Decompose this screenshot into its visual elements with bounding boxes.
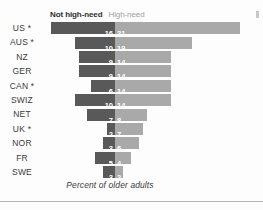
bar-segment-not-high-need: 3 [103,166,115,178]
chart-row: GER914 [0,64,263,78]
chart-row: FR54 [0,151,263,165]
bar-segment-not-high-need: 5 [95,152,115,164]
chart-row: SWE32 [0,165,263,179]
chart-row: NZ914 [0,50,263,64]
bar-segment-not-high-need: 16 [51,22,115,34]
stacked-bar: 914 [0,65,263,77]
chart-row: CAN *614 [0,79,263,93]
stacked-bar: 614 [0,80,263,92]
chart-row: SWIZ1014 [0,93,263,107]
bar-segment-high-need: 19 [115,37,192,49]
bar-segment-high-need: 8 [115,109,147,121]
chart-caption: Percent of older adults [0,180,220,190]
bottom-divider [0,201,263,202]
stacked-bar: 32 [0,166,263,178]
chart-container: Not high-need High-need US *1631AUS *101… [0,0,263,210]
chart-legend: Not high-need High-need [50,8,145,21]
bar-segment-not-high-need: 9 [79,51,115,63]
bar-segment-high-need: 6 [115,137,139,149]
legend-item-high-need: High-need [108,10,144,19]
stacked-bar: 27 [0,123,263,135]
bar-segment-high-need: 4 [115,152,131,164]
bar-segment-not-high-need: 7 [87,109,115,121]
bar-segment-not-high-need: 10 [75,37,115,49]
bar-plot-area: US *1631AUS *1019NZ914GER914CAN *614SWIZ… [0,21,263,179]
chart-row: US *1631 [0,21,263,35]
legend-item-not-high-need: Not high-need [50,10,102,19]
bar-segment-high-need: 14 [115,65,171,77]
chart-row: NET78 [0,107,263,121]
stacked-bar: 78 [0,109,263,121]
stacked-bar: 914 [0,51,263,63]
bar-segment-high-need: 2 [115,166,123,178]
stacked-bar: 1631 [0,22,263,34]
stacked-bar: 1014 [0,94,263,106]
corner-artifact-mark [256,11,259,18]
bar-segment-high-need: 7 [115,123,143,135]
bar-segment-not-high-need: 2 [107,123,115,135]
bar-segment-high-need: 31 [115,22,240,34]
stacked-bar: 54 [0,152,263,164]
stacked-bar: 36 [0,137,263,149]
bar-segment-not-high-need: 6 [91,80,115,92]
bar-segment-not-high-need: 10 [75,94,115,106]
chart-row: AUS *1019 [0,35,263,49]
bar-segment-not-high-need: 9 [79,65,115,77]
chart-row: NOR36 [0,136,263,150]
bar-segment-not-high-need: 3 [103,137,115,149]
bar-segment-high-need: 14 [115,94,171,106]
bar-segment-high-need: 14 [115,80,171,92]
stacked-bar: 1019 [0,37,263,49]
bar-segment-high-need: 14 [115,51,171,63]
chart-row: UK *27 [0,122,263,136]
